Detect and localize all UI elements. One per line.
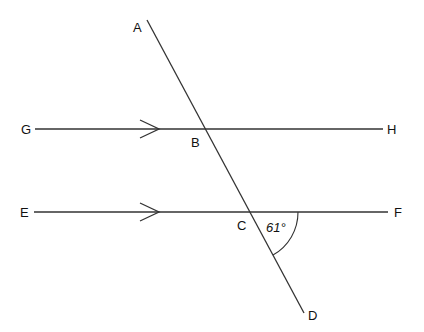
label-a: A [133,20,142,35]
angle-label-c: 61° [266,220,286,235]
label-h: H [387,122,396,137]
diagram-canvas: A G H B E F C 61° D [0,0,424,332]
label-b: B [191,135,200,150]
label-d: D [308,308,317,323]
label-f: F [394,205,402,220]
label-g: G [21,122,31,137]
label-e: E [20,205,29,220]
label-c: C [237,218,246,233]
line-ad [147,20,304,313]
